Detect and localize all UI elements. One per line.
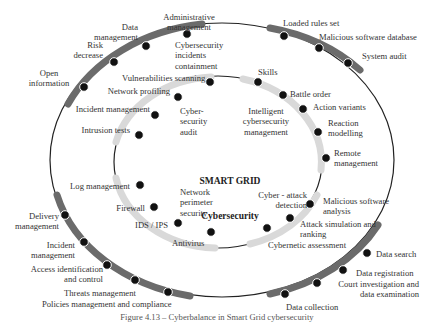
label-system-audit: System audit [362, 51, 407, 61]
dot-battle-order [279, 91, 288, 100]
dot-data-registration [339, 266, 348, 275]
dot-reaction-modelling [314, 128, 323, 137]
label-data-collection: Data collection [286, 302, 338, 312]
label-vulnerabilities-scanning: Vulnerabilities scanning [122, 73, 205, 83]
dot-policies-management [164, 288, 173, 297]
dot-remote-management [322, 154, 331, 163]
label-policies-management: Policies management and compliance [42, 299, 172, 309]
dot-data-management [142, 42, 151, 51]
dot-threats-management [131, 276, 140, 285]
dot-data-collection [281, 290, 290, 299]
label-cybersecurity-audit: Cyber- security audit [180, 106, 207, 137]
label-network-profiling: Network profiling [90, 86, 170, 96]
label-incident-management-outer: Incident management [20, 240, 75, 261]
dot-access-identification [103, 261, 112, 270]
label-incident-management-inner: Incident management [60, 104, 150, 114]
dot-firewall [150, 203, 159, 212]
label-remote-management: Remote management [334, 148, 378, 169]
center-title: SMART GRID Cybersecurity [175, 153, 285, 234]
label-malicious-software-database: Malicious software database [319, 32, 417, 42]
label-threats-management: Threats management [64, 288, 136, 298]
dot-data-search [363, 249, 372, 258]
label-action-variants: Action variants [313, 102, 366, 112]
label-log-management: Log management [50, 181, 130, 191]
label-reaction-modelling: Reaction modelling [328, 118, 363, 139]
label-battle-order: Battle order [290, 89, 331, 99]
center-title-line2: Cybersecurity [175, 211, 285, 223]
dot-vulnerabilities-scanning [206, 78, 215, 87]
dot-risk-decrease [110, 58, 119, 67]
label-attack-simulation: Attack simulation and ranking [300, 219, 376, 240]
dot-open-information [80, 83, 89, 92]
label-cybersecurity-incidents-containment: Cybersecurity incidents containment [175, 40, 223, 71]
label-loaded-rules-set: Loaded rules set [283, 18, 339, 28]
label-ids-ips: IDS / IPS [120, 220, 168, 230]
dot-attack-simulation [286, 214, 295, 223]
label-intrusion-tests: Intrusion tests [60, 125, 130, 135]
label-antivirus: Antivirus [172, 238, 204, 248]
dot-malicious-software-database [315, 44, 324, 53]
label-access-identification: Access identification and control [20, 264, 103, 285]
dot-skills [254, 78, 263, 87]
label-administrative-management: Administrative management [144, 12, 234, 33]
label-firewall: Firewall [100, 203, 145, 213]
center-title-line1: SMART GRID [175, 176, 285, 188]
label-open-information: Open information [20, 68, 78, 89]
label-court-investigation: Court investigation and data examination [302, 279, 419, 300]
label-cybernetic-assessment: Cybernetic assessment [268, 240, 346, 250]
dot-incident-management-outer [80, 238, 89, 247]
label-delivery-management: Delivery management [4, 211, 59, 232]
label-data-search: Data search [376, 249, 416, 259]
label-malicious-software-analysis: Malicious software analysis [323, 196, 389, 217]
dot-log-management [136, 181, 145, 190]
dot-delivery-management [61, 211, 70, 220]
label-data-registration: Data registration [356, 268, 414, 278]
dot-loaded-rules-set [280, 32, 289, 41]
dot-network-profiling [174, 93, 183, 102]
label-intelligent-cybersecurity-management: Intelligent cybersecurity management [226, 106, 306, 137]
dot-incident-management-inner [151, 111, 160, 120]
label-skills: Skills [258, 67, 278, 77]
label-risk-decrease: Risk decrease [40, 40, 103, 61]
dot-system-audit [344, 59, 353, 68]
dot-intrusion-tests [135, 131, 144, 140]
figure-caption: Figure 4.13 – Cyberbalance in Smart Grid… [0, 312, 434, 322]
